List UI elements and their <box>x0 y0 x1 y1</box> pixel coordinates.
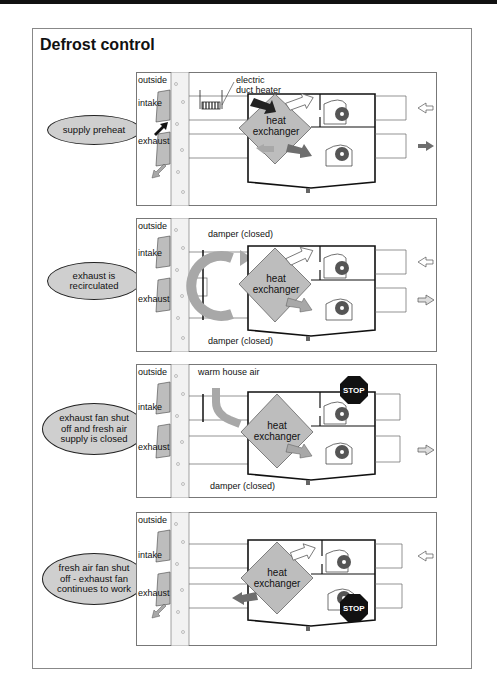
heat-exchanger-label: heat exchanger <box>247 567 307 589</box>
outside-label: outside <box>138 367 167 377</box>
heat-exchanger-label: heat exchanger <box>247 420 307 442</box>
wall-icon <box>171 512 189 646</box>
panel-exhaust-fan-off: outside intake exhaust warm house air da… <box>136 364 437 498</box>
panel-exhaust-recirculated: outside intake exhaust damper (closed) d… <box>136 218 437 352</box>
intake-label: intake <box>138 98 162 108</box>
supply-fan-icon <box>340 266 344 270</box>
intake-label: intake <box>138 402 162 412</box>
heater-callout: electric duct heater <box>236 75 281 95</box>
damper-callout-top: damper (closed) <box>208 229 273 239</box>
wall-icon <box>171 364 189 498</box>
supply-fan-icon <box>342 560 346 564</box>
exhaust-label: exhaust <box>138 136 170 146</box>
exhaust-fan-icon <box>340 152 344 156</box>
top-banner <box>0 0 497 4</box>
warm-air-callout: warm house air <box>198 367 260 377</box>
wall-icon <box>171 72 189 206</box>
figure-title: Defrost control <box>40 36 155 54</box>
outside-label: outside <box>138 221 167 231</box>
exhaust-label: exhaust <box>138 588 170 598</box>
supply-fan-icon <box>340 412 344 416</box>
damper-callout-bottom: damper (closed) <box>208 336 273 346</box>
mode-label-supply-preheat: supply preheat <box>47 115 141 145</box>
supply-fan-icon <box>340 112 344 116</box>
stop-label: STOP <box>343 604 365 613</box>
panel-fresh-fan-off: outside intake exhaust heat exchanger ST… <box>136 512 437 646</box>
damper-callout: damper (closed) <box>210 481 275 491</box>
intake-label: intake <box>138 248 162 258</box>
exhaust-fan-icon <box>340 450 344 454</box>
diagram-supply-preheat <box>136 72 437 206</box>
mode-label-fresh-fan-off: fresh air fan shut off - exhaust fan con… <box>42 553 146 605</box>
heat-exchanger-label: heat exchanger <box>246 115 306 137</box>
panel-supply-preheat: outside intake exhaust electric duct hea… <box>136 72 437 206</box>
exhaust-fan-icon <box>340 306 344 310</box>
mode-label-exhaust-fan-off: exhaust fan shut off and fresh air suppl… <box>42 403 146 455</box>
mode-label-exhaust-recirculated: exhaust is recirculated <box>47 262 141 300</box>
exhaust-hood-icon <box>156 424 170 458</box>
exhaust-label: exhaust <box>138 294 170 304</box>
outside-label: outside <box>138 75 167 85</box>
outside-label: outside <box>138 515 167 525</box>
exhaust-label: exhaust <box>138 442 170 452</box>
heater-icon <box>202 102 220 109</box>
intake-label: intake <box>138 550 162 560</box>
stop-label: STOP <box>343 386 365 395</box>
heat-exchanger-label: heat exchanger <box>246 273 306 295</box>
